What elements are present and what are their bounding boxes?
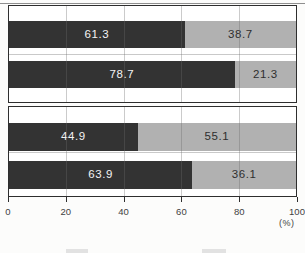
x-axis-tick-label-40: 40 <box>118 206 129 217</box>
x-axis-tick-label-60: 60 <box>176 206 187 217</box>
legend-swatch-partial-1 <box>66 249 88 253</box>
vertical-gridline-40 <box>124 107 125 196</box>
bar-value-light: 55.1 <box>205 131 230 143</box>
bar-segment-light: 38.7 <box>185 21 296 48</box>
bar-value-dark: 63.9 <box>88 169 113 181</box>
x-axis-tick-label-80: 80 <box>234 206 245 217</box>
bar-segment-light: 21.3 <box>235 61 296 88</box>
stacked-bar-row: 63.936.1 <box>9 161 296 189</box>
bar-segment-dark: 44.9 <box>9 123 138 151</box>
stacked-bar-row: 78.721.3 <box>9 61 296 88</box>
x-axis-tick-100 <box>297 197 298 202</box>
chart-panel-top: 61.338.778.721.3 <box>8 5 297 103</box>
bar-segment-dark: 78.7 <box>9 61 235 88</box>
bar-segment-light: 55.1 <box>138 123 296 151</box>
vertical-gridline-40 <box>124 6 125 102</box>
chart-panel-bottom: 44.955.163.936.1 <box>8 106 297 197</box>
percent-unit-label: (%) <box>279 218 295 228</box>
stacked-bar-row: 61.338.7 <box>9 21 296 48</box>
vertical-gridline-60 <box>181 107 182 196</box>
x-axis-tick-label-20: 20 <box>61 206 72 217</box>
x-axis-tick-40 <box>124 197 125 202</box>
bar-segment-dark: 63.9 <box>9 161 192 189</box>
bar-value-light: 36.1 <box>232 169 257 181</box>
vertical-gridline-80 <box>239 107 240 196</box>
stacked-bar-chart-figure: 61.338.778.721.3 44.955.163.936.1 020406… <box>0 0 305 253</box>
x-axis-tick-80 <box>239 197 240 202</box>
x-axis-tick-0 <box>8 197 9 202</box>
vertical-gridline-20 <box>66 107 67 196</box>
bar-value-light: 21.3 <box>253 69 278 81</box>
x-axis-tick-label-0: 0 <box>5 206 10 217</box>
bar-value-dark: 61.3 <box>85 29 110 41</box>
bar-value-dark: 78.7 <box>110 69 135 81</box>
bar-value-dark: 44.9 <box>61 131 86 143</box>
bar-segment-dark: 61.3 <box>9 21 185 48</box>
vertical-gridline-80 <box>239 6 240 102</box>
legend-swatch-partial-2 <box>202 249 226 253</box>
x-axis-tick-label-100: 100 <box>289 206 305 217</box>
row-separator-line <box>9 152 296 153</box>
x-axis-tick-20 <box>66 197 67 202</box>
x-axis: 020406080100(%) <box>8 197 297 247</box>
stacked-bar-row: 44.955.1 <box>9 123 296 151</box>
page-rule-line <box>0 3 305 4</box>
row-separator-line <box>9 54 296 55</box>
vertical-gridline-20 <box>66 6 67 102</box>
x-axis-tick-60 <box>181 197 182 202</box>
vertical-gridline-60 <box>181 6 182 102</box>
bar-value-light: 38.7 <box>228 29 253 41</box>
bar-segment-light: 36.1 <box>192 161 296 189</box>
